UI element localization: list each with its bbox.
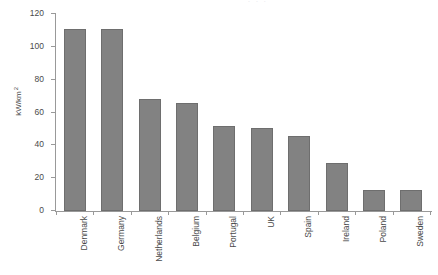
y-tick-label: 0 <box>39 205 44 215</box>
bar-uk <box>251 128 273 211</box>
x-label-portugal: Portugal <box>228 216 238 248</box>
x-tick <box>131 211 132 215</box>
y-tick-label: 40 <box>35 139 44 149</box>
x-label-netherlands: Netherlands <box>154 216 164 262</box>
y-tick-40: 40 <box>51 144 56 145</box>
y-tick-80: 80 <box>51 79 56 80</box>
bar-germany <box>101 29 123 211</box>
x-tick <box>206 211 207 215</box>
bar-portugal <box>213 126 235 211</box>
y-tick-20: 20 <box>51 177 56 178</box>
y-tick-label: 20 <box>35 172 44 182</box>
bar-ireland <box>326 163 348 211</box>
bar-denmark <box>64 29 86 211</box>
x-label-poland: Poland <box>378 216 388 242</box>
x-tick <box>168 211 169 215</box>
x-tick <box>243 211 244 215</box>
y-axis-title-exponent: 2 <box>13 87 19 90</box>
x-label-belgium: Belgium <box>191 216 201 247</box>
bar-belgium <box>176 103 198 211</box>
y-axis-title-base: kW/km <box>14 91 23 115</box>
x-label-ireland: Ireland <box>341 216 351 242</box>
clipped-header-text: . . . <box>248 0 428 4</box>
x-label-denmark: Denmark <box>79 216 89 250</box>
x-label-spain: Spain <box>303 216 313 238</box>
x-tick <box>56 211 57 215</box>
x-tick <box>280 211 281 215</box>
x-label-sweden: Sweden <box>415 216 425 247</box>
y-axis-title: kW/km2 <box>13 71 24 131</box>
x-tick <box>318 211 319 215</box>
y-tick-100: 100 <box>51 46 56 47</box>
bar-poland <box>363 190 385 211</box>
plot-area: 020406080100120 <box>56 14 430 211</box>
x-tick <box>355 211 356 215</box>
y-tick-60: 60 <box>51 112 56 113</box>
x-label-germany: Germany <box>116 216 126 251</box>
bar-netherlands <box>139 99 161 211</box>
x-tick <box>93 211 94 215</box>
bar-spain <box>288 136 310 211</box>
bar-sweden <box>400 190 422 211</box>
x-label-uk: UK <box>266 216 276 228</box>
y-tick-label: 100 <box>30 41 44 51</box>
y-tick-label: 80 <box>35 74 44 84</box>
bar-chart: . . . kW/km2 020406080100120 DenmarkGerm… <box>0 0 438 275</box>
y-tick-label: 120 <box>30 8 44 18</box>
x-tick <box>430 211 431 215</box>
x-tick <box>393 211 394 215</box>
y-tick-label: 60 <box>35 107 44 117</box>
y-tick-120: 120 <box>51 13 56 14</box>
